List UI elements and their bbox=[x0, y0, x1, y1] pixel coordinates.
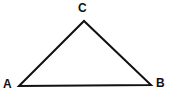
vertex-label-c: C bbox=[78, 2, 87, 14]
triangle-figure: A B C bbox=[0, 0, 169, 97]
vertex-label-b: B bbox=[156, 77, 165, 89]
vertex-label-a: A bbox=[3, 78, 12, 90]
triangle-shape bbox=[19, 21, 151, 86]
